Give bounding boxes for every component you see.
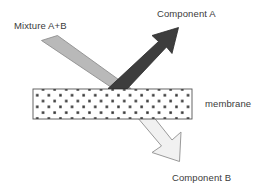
label-mixture-feed: Mixture A+B: [14, 21, 67, 31]
label-membrane: membrane: [205, 99, 251, 109]
label-component-b: Component B: [172, 173, 231, 183]
label-component-a: Component A: [157, 9, 216, 19]
membrane-band: [33, 89, 192, 119]
membrane-separation-diagram: Mixture A+B Component A membrane Compone…: [0, 0, 266, 191]
retentate-arrow: [108, 28, 179, 89]
